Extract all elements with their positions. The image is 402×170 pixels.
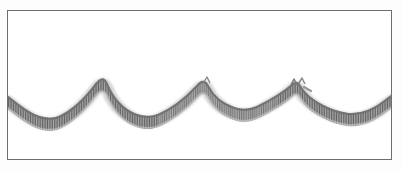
scalloped-festoon-curve [8, 11, 391, 159]
plot-area [8, 11, 391, 159]
curve-hatch-fill [8, 11, 391, 159]
figure-root [0, 0, 402, 170]
rectangular-border [7, 10, 392, 160]
